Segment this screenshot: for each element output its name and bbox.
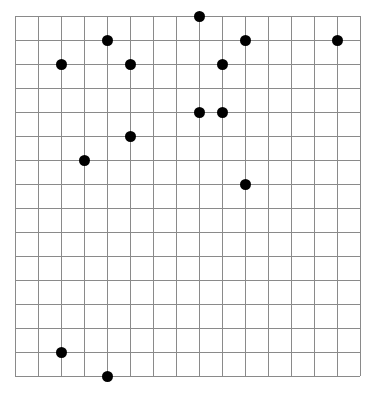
grid-point	[194, 11, 205, 22]
grid-point	[125, 131, 136, 142]
grid-point	[79, 155, 90, 166]
grid-point	[125, 59, 136, 70]
grid-point	[332, 35, 343, 46]
grid-lines	[15, 16, 361, 377]
grid-point	[217, 59, 228, 70]
grid-point	[240, 179, 251, 190]
grid-point	[217, 107, 228, 118]
grid-point	[56, 347, 67, 358]
grid-point	[102, 371, 113, 382]
grid-point	[102, 35, 113, 46]
grid-point	[194, 107, 205, 118]
grid-point	[56, 59, 67, 70]
dot-grid-diagram	[0, 0, 377, 396]
grid-point	[240, 35, 251, 46]
